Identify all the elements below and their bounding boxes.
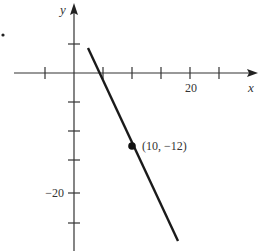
bullet-dot bbox=[1, 33, 4, 36]
line-chart: 20 x y −20 (10, −12) bbox=[0, 0, 260, 251]
y-tick-label-neg20: −20 bbox=[45, 186, 64, 200]
x-axis-label: x bbox=[247, 80, 254, 95]
x-tick-label-20: 20 bbox=[185, 81, 197, 95]
point-label: (10, −12) bbox=[142, 139, 187, 153]
data-point bbox=[128, 142, 136, 150]
x-axis: 20 x bbox=[14, 67, 258, 95]
y-axis: y −20 bbox=[45, 2, 80, 251]
y-axis-label: y bbox=[58, 2, 66, 17]
